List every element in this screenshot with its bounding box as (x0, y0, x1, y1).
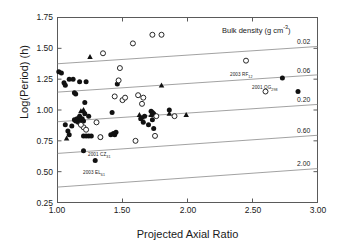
bulk-density-header-close: ) (288, 26, 291, 35)
x-tick-label: 1.50 (102, 206, 142, 215)
y-axis-title: Log(Period) (h) (18, 7, 30, 157)
x-tick-label: 3.00 (298, 206, 338, 215)
object-name: 2001 CZ (88, 152, 106, 157)
figure: 1.75 1.50 1.25 1.00 0.75 0.50 0.25 1.00 … (0, 0, 340, 252)
object-subscript: 298 (271, 88, 277, 92)
density-curve-label-0_20: 0.20 (297, 96, 310, 103)
object-name: 2003 RF (230, 72, 248, 77)
x-axis-title: Projected Axial Ratio (57, 228, 318, 240)
object-label-2001-QG298: 2001 QG298 (252, 85, 278, 92)
y-tick-label: 0.50 (23, 168, 53, 177)
x-tick-label: 1.00 (37, 206, 77, 215)
density-curve-label-0_02: 0.02 (297, 38, 310, 45)
object-name: 2003 EL (83, 170, 101, 175)
object-subscript: 12 (248, 75, 252, 79)
object-label-2003-EL61: 2003 EL61 (83, 170, 105, 177)
object-label-2001-CZ31: 2001 CZ31 (88, 152, 111, 159)
bulk-density-header: Bulk density (g cm-3) (222, 24, 291, 35)
x-tick-label: 2.00 (168, 206, 208, 215)
bulk-density-header-text: Bulk density (g cm (222, 26, 283, 35)
density-curve-label-2_00: 2.00 (297, 160, 310, 167)
density-curve-label-0_60: 0.60 (297, 127, 310, 134)
x-axis-tick-labels: 1.00 1.50 2.00 2.50 3.00 (0, 206, 340, 220)
object-name: 2001 QG (252, 85, 271, 90)
object-subscript: 31 (106, 155, 110, 159)
x-tick-label: 2.50 (233, 206, 273, 215)
object-label-2003-RF12: 2003 RF12 (230, 72, 253, 79)
density-curve-label-0_06: 0.06 (297, 67, 310, 74)
object-subscript: 61 (101, 173, 105, 177)
